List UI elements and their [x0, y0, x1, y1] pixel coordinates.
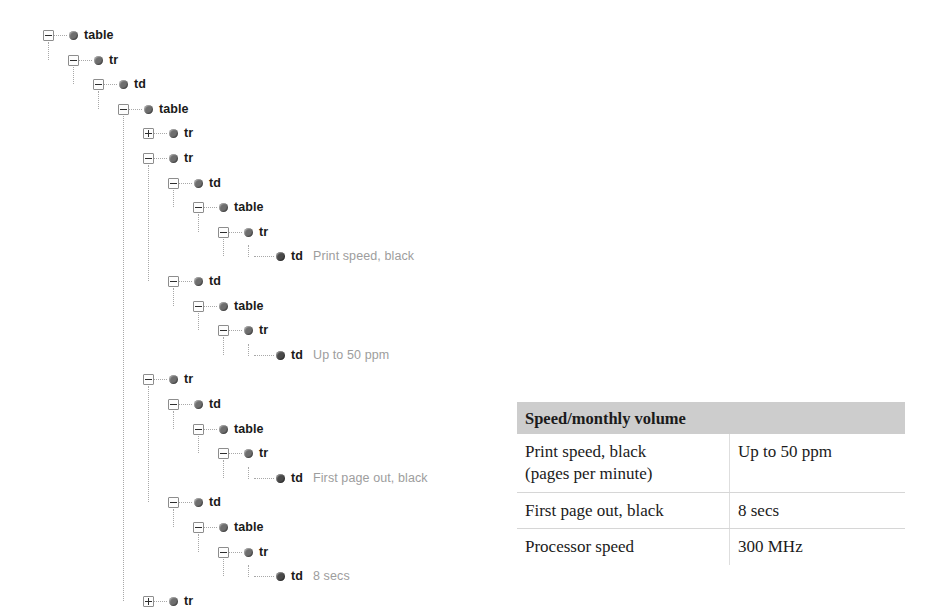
tree-expand-icon[interactable] — [143, 596, 154, 607]
tree-node-bullet-icon — [219, 203, 228, 212]
tree-node-value: Up to 50 ppm — [313, 344, 389, 366]
tree-guide-line — [148, 165, 149, 281]
tree-collapse-icon[interactable] — [218, 325, 229, 336]
tree-connector — [154, 133, 167, 134]
tree-guide-line — [198, 214, 199, 232]
tree-collapse-icon[interactable] — [68, 55, 79, 66]
tree-node-bullet-icon — [276, 252, 285, 261]
tree-guide-line — [98, 91, 99, 109]
spec-row-label: Print speed, black(pages per minute) — [517, 434, 730, 492]
spec-table-row: Print speed, black(pages per minute)Up t… — [517, 434, 905, 492]
tree-node-bullet-icon — [276, 351, 285, 360]
tree-connector — [179, 183, 192, 184]
tree-node-tag: table — [159, 98, 189, 120]
tree-connector — [204, 306, 217, 307]
spec-row-label-line2: (pages per minute) — [525, 464, 652, 483]
tree-collapse-icon[interactable] — [143, 153, 154, 164]
tree-collapse-icon[interactable] — [143, 374, 154, 385]
tree-node-value: First page out, black — [313, 467, 428, 489]
tree-collapse-icon[interactable] — [168, 399, 179, 410]
spec-row-label-line1: First page out, black — [525, 501, 664, 520]
tree-collapse-icon[interactable] — [193, 202, 204, 213]
tree-node-bullet-icon — [94, 56, 103, 65]
tree-collapse-icon[interactable] — [168, 178, 179, 189]
tree-connector — [154, 601, 167, 602]
tree-connector — [129, 109, 142, 110]
tree-guide-line — [148, 386, 149, 502]
tree-node-tag: td — [209, 491, 221, 513]
tree-node-tag: tr — [109, 49, 118, 71]
tree-node-bullet-icon — [276, 474, 285, 483]
tree-node-tag: table — [84, 24, 114, 46]
tree-node-tag: td — [291, 467, 303, 489]
spec-row-label: Processor speed — [517, 529, 730, 565]
tree-node-tag: table — [234, 295, 264, 317]
tree-guide-line — [198, 534, 199, 552]
tree-collapse-icon[interactable] — [193, 424, 204, 435]
tree-node-tag: table — [234, 196, 264, 218]
tree-node-tag: tr — [184, 368, 193, 390]
tree-node-tag: table — [234, 418, 264, 440]
tree-node-bullet-icon — [119, 80, 128, 89]
tree-guide-line — [223, 239, 224, 256]
tree-leaf-elbow — [248, 467, 249, 479]
tree-collapse-icon[interactable] — [218, 448, 229, 459]
spec-table-row: Processor speed300 MHz — [517, 529, 905, 565]
spec-row-label-line1: Processor speed — [525, 537, 634, 556]
tree-leaf-elbow — [248, 565, 249, 577]
tree-collapse-icon[interactable] — [43, 30, 54, 41]
tree-expand-icon[interactable] — [143, 128, 154, 139]
dom-tree-panel[interactable]: tabletrtdtabletrtrtdtabletrtdPrint speed… — [0, 0, 520, 611]
spec-row-label: First page out, black — [517, 492, 730, 529]
spec-table-body: Print speed, black(pages per minute)Up t… — [517, 434, 905, 565]
tree-collapse-icon[interactable] — [218, 227, 229, 238]
spec-row-value: 300 MHz — [730, 529, 906, 565]
tree-connector — [204, 527, 217, 528]
tree-connector — [254, 256, 274, 257]
tree-node-bullet-icon — [169, 129, 178, 138]
tree-node-bullet-icon — [244, 548, 253, 557]
tree-guide-line — [223, 337, 224, 355]
tree-collapse-icon[interactable] — [218, 547, 229, 558]
spec-row-value: 8 secs — [730, 492, 906, 529]
tree-guide-line — [223, 460, 224, 478]
tree-collapse-icon[interactable] — [193, 301, 204, 312]
tree-leaf-elbow — [248, 344, 249, 356]
tree-node-tag: tr — [259, 319, 268, 341]
tree-collapse-icon[interactable] — [93, 79, 104, 90]
tree-connector — [204, 429, 217, 430]
tree-node-tag: tr — [184, 122, 193, 144]
tree-node-tag: tr — [259, 541, 268, 563]
tree-node-value: 8 secs — [313, 565, 350, 587]
tree-connector — [254, 355, 274, 356]
tree-node-bullet-icon — [244, 228, 253, 237]
tree-guide-line — [73, 67, 74, 84]
tree-node-bullet-icon — [276, 572, 285, 581]
tree-connector — [229, 330, 242, 331]
tree-node-bullet-icon — [244, 326, 253, 335]
tree-node-tag: td — [209, 172, 221, 194]
tree-connector — [154, 158, 167, 159]
tree-node-tag: tr — [184, 590, 193, 611]
tree-node-tag: td — [209, 270, 221, 292]
tree-node-bullet-icon — [244, 449, 253, 458]
tree-guide-line — [173, 411, 174, 429]
tree-node-tag: tr — [184, 147, 193, 169]
tree-node-tag: td — [209, 393, 221, 415]
tree-connector — [179, 404, 192, 405]
tree-guide-line — [223, 559, 224, 576]
tree-guide-line — [173, 288, 174, 306]
tree-connector — [254, 478, 274, 479]
tree-collapse-icon[interactable] — [168, 497, 179, 508]
tree-collapse-icon[interactable] — [168, 276, 179, 287]
tree-node-bullet-icon — [194, 277, 203, 286]
spec-table: Speed/monthly volume Print speed, black(… — [517, 402, 905, 565]
tree-collapse-icon[interactable] — [193, 522, 204, 533]
tree-collapse-icon[interactable] — [118, 104, 129, 115]
tree-node-bullet-icon — [219, 302, 228, 311]
tree-node-bullet-icon — [194, 498, 203, 507]
tree-connector — [254, 576, 274, 577]
tree-node-tag: td — [291, 565, 303, 587]
spec-table-header-title: Speed/monthly volume — [517, 402, 905, 434]
tree-connector — [204, 207, 217, 208]
